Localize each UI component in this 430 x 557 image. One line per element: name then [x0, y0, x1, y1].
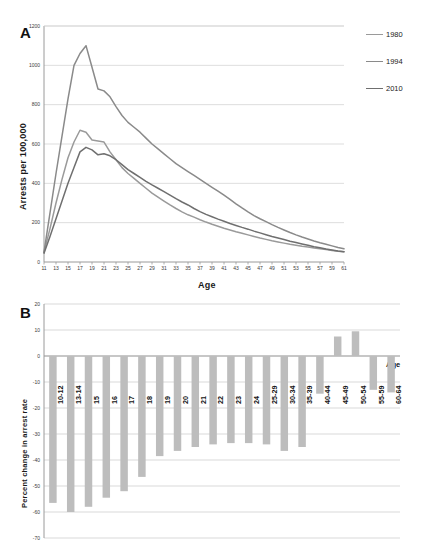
legend-label-1994: 1994 — [386, 57, 403, 66]
bar-label-40-44: 40-44 — [323, 386, 332, 404]
bar-17 — [120, 356, 127, 491]
bar-19 — [156, 356, 163, 456]
panel-a-y-tick: 800 — [20, 101, 40, 107]
panel-b-y-tick: -60 — [20, 509, 40, 515]
legend-label-2010: 2010 — [386, 84, 403, 93]
panel-b-y-tick: -20 — [20, 405, 40, 411]
panel-b-y-tick: -70 — [20, 535, 40, 541]
legend-item-1994: 1994 — [366, 57, 403, 66]
panel-a-y-tick: 1200 — [20, 23, 40, 29]
bar-16 — [103, 356, 110, 498]
bar-30-34 — [281, 356, 288, 451]
panel-b-y-tick: -40 — [20, 457, 40, 463]
panel-b: B Percent change in arrest rate Age 10-1… — [0, 290, 430, 557]
bar-15 — [85, 356, 92, 507]
panel-a-y-tick: 0 — [20, 259, 40, 265]
legend-swatch-1994 — [366, 61, 383, 63]
bar-label-30-34: 30-34 — [288, 386, 297, 404]
panel-b-y-tick: 10 — [20, 327, 40, 333]
panel-b-y-tick: 0 — [20, 353, 40, 359]
bar-label-60-64: 60-64 — [394, 386, 403, 404]
bar-13-14 — [67, 356, 74, 512]
bar-label-17: 17 — [127, 396, 136, 404]
legend-item-2010: 2010 — [366, 84, 403, 93]
bar-label-16: 16 — [110, 396, 119, 404]
bar-label-22: 22 — [216, 396, 225, 404]
bar-21 — [192, 356, 199, 447]
panel-a-x-tick: 61 — [336, 265, 352, 271]
bar-55-59 — [370, 356, 377, 390]
bar-label-50-54: 50-54 — [359, 386, 368, 404]
legend-swatch-1980 — [366, 34, 383, 36]
figure-container: A Arrests per 100,000 Age 198019942010 0… — [0, 0, 430, 557]
panel-b-y-tick: -30 — [20, 431, 40, 437]
panel-a-y-tick: 400 — [20, 180, 40, 186]
bar-50-54 — [352, 331, 359, 356]
panel-a-y-tick: 600 — [20, 141, 40, 147]
panel-a-plot — [0, 0, 430, 290]
bar-label-24: 24 — [252, 396, 261, 404]
bar-label-35-39: 35-39 — [305, 386, 314, 404]
panel-a: A Arrests per 100,000 Age 198019942010 0… — [0, 0, 430, 290]
bar-label-19: 19 — [163, 396, 172, 404]
panel-b-plot — [0, 290, 430, 557]
legend-label-1980: 1980 — [386, 30, 403, 39]
bar-label-15: 15 — [92, 396, 101, 404]
panel-a-y-tick: 1000 — [20, 62, 40, 68]
bar-label-55-59: 55-59 — [377, 386, 386, 404]
bar-18 — [138, 356, 145, 477]
bar-label-23: 23 — [234, 396, 243, 404]
panel-b-y-tick: -10 — [20, 379, 40, 385]
bar-10-12 — [49, 356, 56, 503]
bar-label-45-49: 45-49 — [341, 386, 350, 404]
bar-label-20: 20 — [181, 396, 190, 404]
panel-b-y-tick: 20 — [20, 301, 40, 307]
legend-swatch-2010 — [366, 88, 383, 90]
bar-label-25-29: 25-29 — [270, 386, 279, 404]
panel-a-y-tick: 200 — [20, 219, 40, 225]
bar-label-10-12: 10-12 — [56, 386, 65, 404]
panel-a-line-2010 — [44, 147, 344, 253]
bar-45-49 — [334, 337, 341, 357]
panel-b-y-tick: -50 — [20, 483, 40, 489]
legend-item-1980: 1980 — [366, 30, 403, 39]
bar-label-18: 18 — [145, 396, 154, 404]
bar-label-13-14: 13-14 — [74, 386, 83, 404]
bar-label-21: 21 — [199, 396, 208, 404]
